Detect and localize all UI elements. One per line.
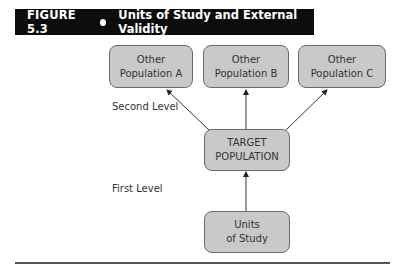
node-label-line2: Population A [120,67,183,81]
node-label-line2: of Study [226,232,268,246]
node-label-line2: Population B [215,67,278,81]
node-label-line1: Other [137,53,165,67]
bottom-rule-divider [15,262,390,264]
node-other-population-b: Other Population B [203,45,289,88]
node-label-line2: Population C [311,67,374,81]
node-other-population-a: Other Population A [109,45,193,88]
node-label-line1: TARGET [227,136,266,150]
node-label-line1: Other [232,53,260,67]
node-other-population-c: Other Population C [298,45,386,88]
node-target-population: TARGET POPULATION [204,129,290,171]
node-label-line1: Other [328,53,356,67]
connector-arrows [0,0,406,265]
level-label-first: First Level [112,183,163,194]
node-units-of-study: Units of Study [204,211,290,253]
arrow-target-to-pop-c [286,90,327,130]
level-label-second: Second Level [112,101,178,112]
node-label-line1: Units [234,218,260,232]
node-label-line2: POPULATION [215,150,279,164]
